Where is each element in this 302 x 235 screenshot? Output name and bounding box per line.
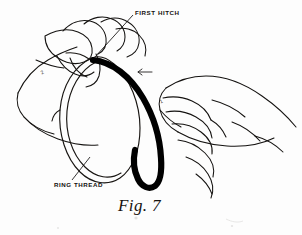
label-first-hitch: FIRST HITCH — [135, 10, 180, 16]
figure-caption: Fig. 7 — [118, 196, 161, 216]
label-ring-thread: RING THREAD — [54, 182, 103, 188]
figure-container: FIRST HITCH RING THREAD 2 1 Fig. 7 — [0, 0, 302, 235]
